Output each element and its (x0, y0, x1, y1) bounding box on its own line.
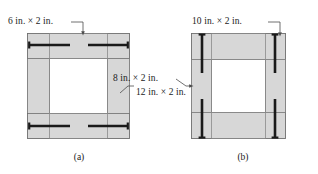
panel-b-side-leader-line (176, 79, 191, 86)
panel-b-top-leader-line (268, 22, 280, 32)
label-panel-b-side-member: 8 in. × 2 in. (113, 74, 158, 84)
panel-b-bottom-beam (192, 113, 286, 139)
figure-root: 6 in. × 2 in. 12 in. × 2 in. 10 in. × 2 … (0, 0, 318, 174)
panel-a-top-leader-line (71, 22, 83, 33)
label-panel-a-side-member: 12 in. × 2 in. (136, 88, 186, 98)
panel-b-top-beam (192, 34, 286, 60)
caption-panel-b: (b) (224, 153, 262, 163)
label-panel-b-top-member: 10 in. × 2 in. (192, 17, 242, 27)
panel-b-frame (176, 22, 286, 139)
label-panel-a-top-member: 6 in. × 2 in. (8, 17, 53, 27)
caption-panel-a: (a) (60, 153, 98, 163)
